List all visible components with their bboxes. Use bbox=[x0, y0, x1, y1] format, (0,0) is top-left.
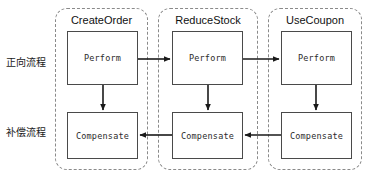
node-compensate-create-order: Compensate bbox=[67, 112, 138, 159]
node-label-compensate: Compensate bbox=[290, 131, 343, 141]
lane-title-reduce-stock: ReduceStock bbox=[159, 14, 257, 26]
node-label-perform: Perform bbox=[189, 53, 226, 63]
lane-title-use-coupon: UseCoupon bbox=[269, 14, 361, 26]
node-label-compensate: Compensate bbox=[181, 131, 234, 141]
saga-flow-diagram: 正向流程 补偿流程 CreateOrder ReduceStock UseCou… bbox=[0, 0, 374, 180]
node-perform-use-coupon: Perform bbox=[281, 31, 352, 85]
node-perform-reduce-stock: Perform bbox=[172, 31, 243, 85]
node-label-compensate: Compensate bbox=[76, 131, 129, 141]
row-label-compensate-flow: 补偿流程 bbox=[6, 128, 46, 138]
node-label-perform: Perform bbox=[84, 53, 121, 63]
node-label-perform: Perform bbox=[298, 53, 335, 63]
lane-title-create-order: CreateOrder bbox=[56, 14, 147, 26]
row-label-forward-flow: 正向流程 bbox=[6, 58, 46, 68]
node-perform-create-order: Perform bbox=[67, 31, 138, 85]
node-compensate-reduce-stock: Compensate bbox=[172, 112, 243, 159]
node-compensate-use-coupon: Compensate bbox=[281, 112, 352, 159]
